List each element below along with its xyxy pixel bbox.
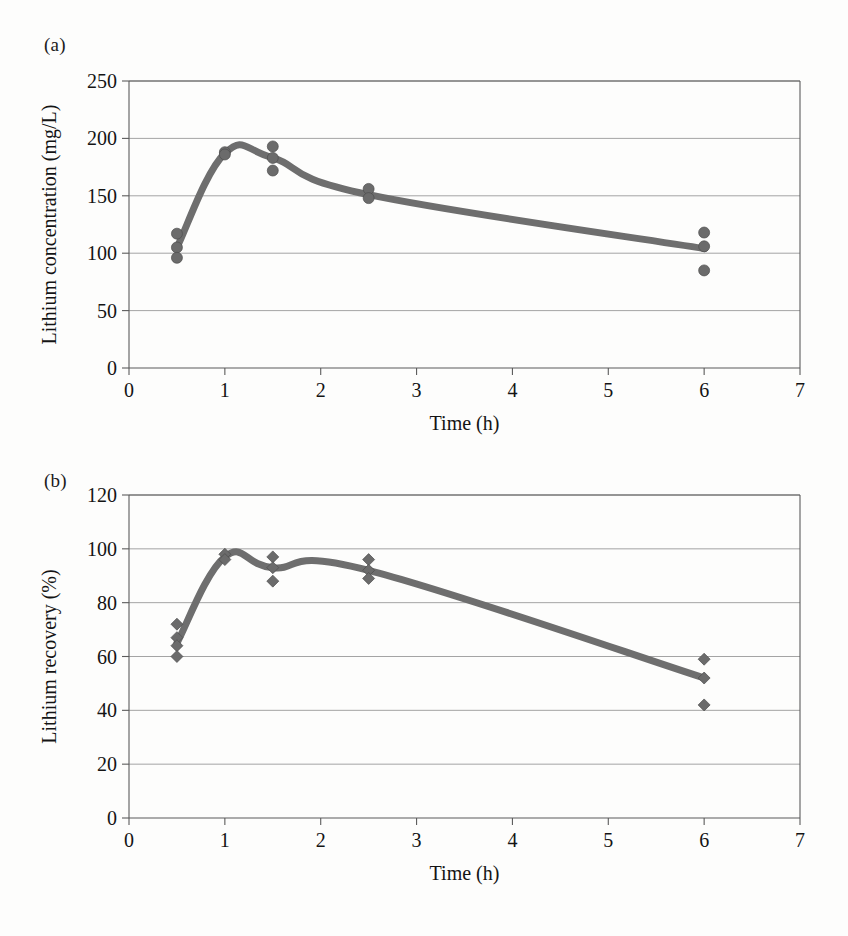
data-point xyxy=(363,193,374,204)
x-tick-label-5: 5 xyxy=(603,829,613,851)
data-point xyxy=(267,152,278,163)
chart-b: 02040608010012001234567Time (h)Lithium r… xyxy=(0,448,848,918)
data-point xyxy=(363,554,375,566)
panel-a-label: (a) xyxy=(44,34,66,56)
x-tick-label-1: 1 xyxy=(220,829,230,851)
y-axis-title-b: Lithium recovery (%) xyxy=(38,569,61,743)
y-tick-label-50: 50 xyxy=(97,300,117,322)
x-tick-label-7: 7 xyxy=(795,829,805,851)
data-point xyxy=(171,242,182,253)
panel-a: (a) 05010015020025001234567Time (h)Lithi… xyxy=(0,0,848,460)
data-point xyxy=(171,651,183,663)
x-ticks-a: 01234567 xyxy=(124,368,805,401)
x-tick-label-0: 0 xyxy=(124,829,134,851)
x-tick-label-6: 6 xyxy=(699,829,709,851)
data-point xyxy=(698,699,710,711)
data-point xyxy=(219,149,230,160)
y-tick-label-0: 0 xyxy=(107,807,117,829)
x-tick-label-7: 7 xyxy=(795,379,805,401)
data-point xyxy=(699,265,710,276)
x-tick-label-6: 6 xyxy=(699,379,709,401)
chart-canvas-a: 05010015020025001234567Time (h)Lithium c… xyxy=(0,0,848,450)
data-point xyxy=(267,165,278,176)
data-point xyxy=(267,575,279,587)
grid-lines-a xyxy=(129,81,800,311)
y-tick-label-120: 120 xyxy=(87,484,117,506)
y-ticks-b: 020406080100120 xyxy=(87,484,129,829)
data-point xyxy=(267,551,279,563)
y-tick-label-100: 100 xyxy=(87,538,117,560)
x-tick-label-2: 2 xyxy=(316,379,326,401)
y-tick-label-0: 0 xyxy=(107,357,117,379)
x-tick-label-1: 1 xyxy=(220,379,230,401)
x-tick-label-2: 2 xyxy=(316,829,326,851)
grid-lines-b xyxy=(129,495,800,764)
x-tick-label-5: 5 xyxy=(603,379,613,401)
panel-b-label: (b) xyxy=(44,470,67,492)
series-line-b xyxy=(177,552,704,678)
figure-root: (a) 05010015020025001234567Time (h)Lithi… xyxy=(0,0,848,936)
x-ticks-b: 01234567 xyxy=(124,818,805,851)
x-tick-label-3: 3 xyxy=(412,829,422,851)
data-point xyxy=(267,141,278,152)
y-tick-label-150: 150 xyxy=(87,185,117,207)
y-tick-label-60: 60 xyxy=(97,646,117,668)
markers-b xyxy=(171,548,710,711)
x-tick-label-4: 4 xyxy=(507,829,517,851)
data-point xyxy=(699,227,710,238)
data-point xyxy=(171,252,182,263)
y-tick-label-100: 100 xyxy=(87,242,117,264)
panel-b: (b) 02040608010012001234567Time (h)Lithi… xyxy=(0,448,848,936)
data-point xyxy=(171,228,182,239)
data-point xyxy=(698,653,710,665)
y-tick-label-200: 200 xyxy=(87,127,117,149)
y-axis-title-a: Lithium concentration (mg/L) xyxy=(38,105,61,345)
x-tick-label-3: 3 xyxy=(412,379,422,401)
y-tick-label-80: 80 xyxy=(97,592,117,614)
y-ticks-a: 050100150200250 xyxy=(87,70,129,379)
x-axis-title-b: Time (h) xyxy=(430,862,500,885)
axes-a xyxy=(129,81,800,368)
chart-a: 05010015020025001234567Time (h)Lithium c… xyxy=(0,0,848,450)
x-tick-label-4: 4 xyxy=(507,379,517,401)
y-tick-label-20: 20 xyxy=(97,753,117,775)
chart-canvas-b: 02040608010012001234567Time (h)Lithium r… xyxy=(0,448,848,918)
data-point xyxy=(267,562,279,574)
y-tick-label-250: 250 xyxy=(87,70,117,92)
y-tick-label-40: 40 xyxy=(97,699,117,721)
data-point xyxy=(699,241,710,252)
x-axis-title-a: Time (h) xyxy=(430,412,500,435)
x-tick-label-0: 0 xyxy=(124,379,134,401)
series-line-a xyxy=(177,145,704,249)
